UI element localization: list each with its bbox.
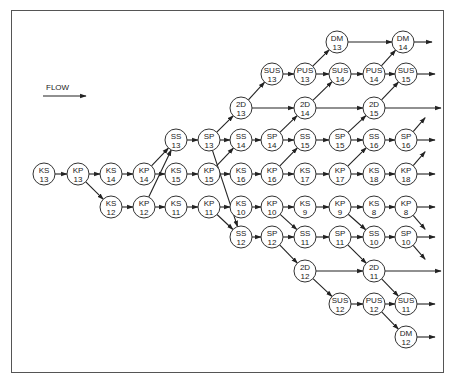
node-label-top: KP — [73, 166, 84, 175]
node-label-top: SS — [300, 229, 311, 238]
node-label-bottom: 8 — [372, 208, 377, 217]
node-SS16: SS16 — [363, 129, 385, 151]
node-KS15: KS15 — [165, 163, 187, 185]
node-label-top: KS — [236, 199, 247, 208]
flow-diagram: FLOW KS13KP13KS14KS12KP14KP12SS13KS15KS1… — [0, 0, 453, 385]
edge-SP14-to-2D14 — [280, 116, 297, 133]
node-label-bottom: 15 — [301, 141, 310, 150]
node-label-bottom: 13 — [205, 141, 214, 150]
node-label-bottom: 12 — [336, 305, 345, 314]
node-KS11: KS11 — [165, 196, 187, 218]
node-label-top: SS — [236, 132, 247, 141]
edge-SP15-to-2D15 — [348, 116, 366, 133]
node-label-bottom: 9 — [303, 208, 308, 217]
node-KS16: KS16 — [230, 163, 252, 185]
node-SP11: SP11 — [329, 226, 351, 248]
node-DM13: DM13 — [326, 31, 348, 53]
node-label-bottom: 13 — [301, 75, 310, 84]
node-SS10: SS10 — [363, 226, 385, 248]
node-label-top: SP — [335, 132, 346, 141]
node-KP16: KP16 — [261, 163, 283, 185]
node-label-top: SS — [369, 229, 380, 238]
node-SS13: SS13 — [165, 129, 187, 151]
node-SP15: SP15 — [329, 129, 351, 151]
node-label-top: SUS — [398, 66, 414, 75]
node-2D13: 2D13 — [230, 97, 252, 119]
edges-layer — [55, 42, 441, 337]
node-label-bottom: 11 — [336, 238, 345, 247]
node-SS14: SS14 — [230, 129, 252, 151]
node-label-top: DM — [331, 34, 344, 43]
node-label-bottom: 14 — [301, 109, 310, 118]
node-label-bottom: 15 — [336, 141, 345, 150]
node-DM14: DM14 — [392, 31, 414, 53]
edge-SP12-to-2D12 — [280, 245, 298, 263]
node-label-top: KS — [300, 199, 311, 208]
edge-PUS14-to-DM14 — [381, 50, 395, 66]
node-label-bottom: 14 — [107, 175, 116, 184]
node-label-top: PUS — [366, 66, 382, 75]
node-label-top: SUS — [398, 296, 414, 305]
node-label-bottom: 11 — [301, 238, 310, 247]
node-label-bottom: 12 — [268, 238, 277, 247]
node-KS12: KS12 — [100, 196, 122, 218]
node-SUS11: SUS11 — [395, 293, 417, 315]
node-label-top: KP — [401, 166, 412, 175]
node-label-bottom: 10 — [268, 208, 277, 217]
node-label-bottom: 12 — [107, 208, 116, 217]
node-label-top: KS — [106, 199, 117, 208]
node-label-bottom: 10 — [237, 208, 246, 217]
node-label-top: SP — [204, 132, 215, 141]
node-label-bottom: 14 — [336, 75, 345, 84]
node-SP10: SP10 — [395, 226, 417, 248]
edge-2D11-to-SUS11 — [382, 279, 399, 296]
node-label-top: KP — [401, 199, 412, 208]
node-PUS14: PUS14 — [363, 63, 385, 85]
node-KS17: KS17 — [294, 163, 316, 185]
node-label-bottom: 12 — [301, 272, 310, 281]
node-KP11: KP11 — [198, 196, 220, 218]
node-label-top: SP — [267, 229, 278, 238]
exit-arrow-KP8 — [413, 215, 425, 229]
node-label-top: SS — [171, 132, 182, 141]
node-PUS13: PUS13 — [294, 63, 316, 85]
node-label-bottom: 18 — [370, 175, 379, 184]
node-PUS12: PUS12 — [363, 293, 385, 315]
edge-2D13-to-SUS13 — [248, 82, 264, 100]
node-label-top: DM — [397, 34, 410, 43]
node-label-top: 2D — [236, 100, 246, 109]
node-label-bottom: 11 — [205, 208, 214, 217]
node-label-top: SS — [236, 229, 247, 238]
node-label-top: KS — [171, 166, 182, 175]
exit-arrow-KP18 — [413, 152, 425, 166]
node-label-bottom: 11 — [370, 272, 379, 281]
node-label-top: KP — [267, 199, 278, 208]
node-label-top: 2D — [300, 263, 310, 272]
node-label-top: KS — [369, 199, 380, 208]
edge-KP13-to-KS12 — [86, 182, 103, 199]
node-label-bottom: 15 — [205, 175, 214, 184]
edge-2D12-to-SUS12 — [313, 279, 332, 297]
node-label-bottom: 14 — [399, 43, 408, 52]
edge-KP17-to-SS16 — [348, 148, 366, 166]
node-label-bottom: 17 — [301, 175, 310, 184]
node-label-top: KS — [236, 166, 247, 175]
node-label-bottom: 16 — [402, 141, 411, 150]
node-label-top: KP — [267, 166, 278, 175]
edge-KP16-to-SS15 — [280, 148, 298, 166]
node-label-top: PUS — [366, 296, 382, 305]
node-DM12: DM12 — [395, 326, 417, 348]
node-label-bottom: 12 — [402, 338, 411, 347]
node-label-top: 2D — [300, 100, 310, 109]
node-KP8: KP8 — [395, 196, 417, 218]
node-label-bottom: 15 — [172, 175, 181, 184]
edge-KP14-to-SS13 — [152, 148, 169, 166]
node-label-bottom: 17 — [336, 175, 345, 184]
node-label-top: SP — [267, 132, 278, 141]
edge-KP11-to-SS12 — [217, 215, 233, 230]
edge-KP10-to-SS11 — [280, 214, 297, 229]
node-label-top: SP — [401, 132, 412, 141]
edge-PUS12-to-DM12 — [382, 312, 399, 329]
node-label-bottom: 16 — [237, 175, 246, 184]
node-KS8: KS8 — [363, 196, 385, 218]
